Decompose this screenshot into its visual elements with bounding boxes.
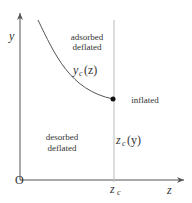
svg-text:c: c <box>79 69 83 78</box>
svg-text:(y): (y) <box>127 133 141 147</box>
svg-text:c: c <box>122 139 126 148</box>
zc-tick-label: z c <box>109 182 121 197</box>
zc-line-label: z c (y) <box>115 133 141 148</box>
critical-point <box>111 97 116 102</box>
region-desorbed-deflated-label: deflated <box>48 143 77 153</box>
x-axis-label: z <box>166 183 172 197</box>
svg-text:(z): (z) <box>84 63 97 77</box>
phase-diagram: y z O z c adsorbed deflated desorbed def… <box>0 0 192 203</box>
yc-curve-label: y c (z) <box>72 63 97 78</box>
region-inflated-label: inflated <box>131 95 159 105</box>
region-adsorbed-deflated-label: deflated <box>73 42 102 52</box>
origin-label: O <box>15 173 24 187</box>
region-adsorbed-label: adsorbed <box>71 32 104 42</box>
svg-text:z: z <box>109 182 115 196</box>
region-desorbed-label: desorbed <box>46 132 79 142</box>
svg-text:c: c <box>117 188 121 197</box>
svg-text:y: y <box>72 63 79 77</box>
y-axis-label: y <box>8 29 15 43</box>
svg-text:z: z <box>115 133 121 147</box>
